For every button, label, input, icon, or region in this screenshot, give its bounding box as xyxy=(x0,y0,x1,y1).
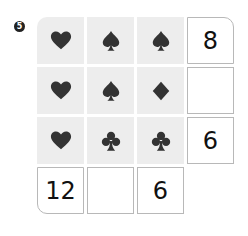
grid-cell-r2c3 xyxy=(137,67,184,114)
row-sum-3[interactable]: 6 xyxy=(187,117,234,164)
grid-cell-r2c2 xyxy=(87,67,134,114)
col-sum-1[interactable]: 12 xyxy=(37,167,84,214)
puzzle-number-badge: 5 xyxy=(14,21,25,32)
spade-icon xyxy=(100,30,122,52)
grid-cell-r1c2 xyxy=(87,17,134,64)
grid-cell-r3c1 xyxy=(37,117,84,164)
heart-icon xyxy=(50,30,72,52)
row-sum-2[interactable] xyxy=(187,67,234,114)
col-sum-2[interactable] xyxy=(87,167,134,214)
grid-cell-r1c1 xyxy=(37,17,84,64)
col-sum-3[interactable]: 6 xyxy=(137,167,184,214)
grid-cell-r3c3 xyxy=(137,117,184,164)
row-sum-1[interactable]: 8 xyxy=(187,17,234,64)
club-icon xyxy=(150,130,172,152)
spade-icon xyxy=(150,30,172,52)
heart-icon xyxy=(50,80,72,102)
club-icon xyxy=(100,130,122,152)
spade-icon xyxy=(100,80,122,102)
grid-cell-r1c3 xyxy=(137,17,184,64)
grid-cell-r2c1 xyxy=(37,67,84,114)
grid-cell-r3c2 xyxy=(87,117,134,164)
diamond-icon xyxy=(150,80,172,102)
heart-icon xyxy=(50,130,72,152)
